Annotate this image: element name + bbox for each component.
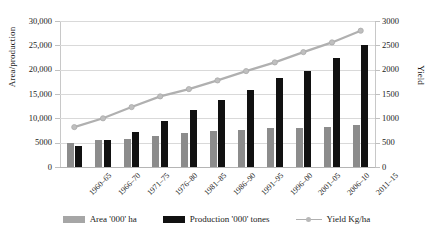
chart-legend: Area '000' ha Production '000' tones Yie… bbox=[0, 214, 433, 224]
x-tick-label: 1960–65 bbox=[88, 171, 114, 197]
x-axis-line bbox=[60, 167, 376, 168]
x-tick-label: 2001–05 bbox=[317, 171, 343, 197]
yield-line-marker[interactable] bbox=[244, 69, 249, 74]
yield-line-marker[interactable] bbox=[272, 60, 277, 65]
x-tick-label: 1966–70 bbox=[116, 171, 142, 197]
chart-container: Area/production Yield 0500010,00015,0002… bbox=[0, 0, 433, 243]
y-tick-mark-right bbox=[375, 94, 380, 95]
yield-line-series bbox=[60, 21, 375, 167]
x-tick-label: 1986–90 bbox=[231, 171, 257, 197]
y-tick-mark-left bbox=[55, 167, 60, 168]
y-tick-label-right: 1500 bbox=[382, 90, 424, 99]
legend-swatch-yield-icon bbox=[296, 216, 322, 223]
x-tick-label: 2006–10 bbox=[345, 171, 371, 197]
y-tick-label-left: 25,000 bbox=[6, 41, 52, 50]
y-tick-mark-right bbox=[375, 45, 380, 46]
legend-label-production: Production '000' tones bbox=[190, 214, 270, 224]
y-tick-label-left: 15,000 bbox=[6, 90, 52, 99]
y-tick-label-right: 500 bbox=[382, 138, 424, 147]
legend-item-production[interactable]: Production '000' tones bbox=[163, 214, 270, 224]
x-tick-label: 1976–80 bbox=[173, 171, 199, 197]
yield-line-marker[interactable] bbox=[186, 87, 191, 92]
legend-swatch-area-icon bbox=[63, 216, 85, 223]
y-tick-label-left: 20,000 bbox=[6, 65, 52, 74]
yield-line-marker[interactable] bbox=[301, 50, 306, 55]
x-tick-label: 2011–15 bbox=[374, 171, 400, 197]
y-tick-label-left: 10,000 bbox=[6, 114, 52, 123]
legend-item-area[interactable]: Area '000' ha bbox=[63, 214, 137, 224]
yield-line-marker[interactable] bbox=[100, 116, 105, 121]
y-tick-label-right: 2500 bbox=[382, 41, 424, 50]
y-tick-label-left: 0 bbox=[6, 163, 52, 172]
yield-line-marker[interactable] bbox=[329, 40, 334, 45]
yield-line-marker[interactable] bbox=[215, 78, 220, 83]
yield-line-marker[interactable] bbox=[72, 125, 77, 130]
y-tick-mark-right bbox=[375, 118, 380, 119]
y-tick-mark-right bbox=[375, 21, 380, 22]
x-tick-label: 1991–95 bbox=[259, 171, 285, 197]
y-tick-mark-right bbox=[375, 70, 380, 71]
y-tick-label-right: 0 bbox=[382, 163, 424, 172]
x-tick-label: 1981–85 bbox=[202, 171, 228, 197]
y-tick-label-right: 1000 bbox=[382, 114, 424, 123]
y-tick-mark-right bbox=[375, 143, 380, 144]
y-tick-mark-right bbox=[375, 167, 380, 168]
x-tick-label: 1971–75 bbox=[145, 171, 171, 197]
legend-swatch-production-icon bbox=[163, 216, 185, 223]
plot-area bbox=[60, 21, 375, 167]
y-tick-label-left: 5000 bbox=[6, 138, 52, 147]
yield-line-marker[interactable] bbox=[358, 28, 363, 33]
y-tick-label-left: 30,000 bbox=[6, 17, 52, 26]
y-tick-label-right: 2000 bbox=[382, 65, 424, 74]
legend-label-yield: Yield Kg/ha bbox=[327, 214, 371, 224]
y-tick-label-right: 3000 bbox=[382, 17, 424, 26]
legend-item-yield[interactable]: Yield Kg/ha bbox=[296, 214, 371, 224]
legend-label-area: Area '000' ha bbox=[90, 214, 137, 224]
yield-line-marker[interactable] bbox=[158, 94, 163, 99]
yield-line-marker[interactable] bbox=[129, 105, 134, 110]
x-tick-label: 1996–00 bbox=[288, 171, 314, 197]
